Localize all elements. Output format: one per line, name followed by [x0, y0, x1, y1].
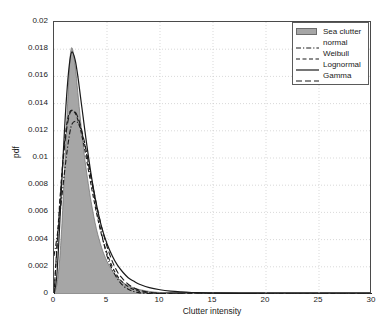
legend-item: normal: [296, 37, 365, 48]
y-tick-label: 0.008: [2, 180, 48, 188]
legend-label: Weibull: [323, 49, 349, 58]
y-tick-label: 0.01: [2, 153, 48, 161]
chart-legend: Sea clutternormalWeibullLognormalGamma: [292, 22, 369, 85]
legend-label: Gamma: [323, 71, 351, 80]
legend-patch: [296, 28, 317, 35]
x-tick-label: 25: [303, 296, 333, 304]
legend-swatch: [296, 60, 319, 69]
x-tick-label: 5: [91, 296, 121, 304]
legend-item: Gamma: [296, 70, 365, 81]
y-tick-label: 0.004: [2, 235, 48, 243]
legend-item: Weibull: [296, 48, 365, 59]
legend-label: Lognormal: [323, 60, 361, 69]
y-tick-label: 0.018: [2, 44, 48, 52]
legend-item: Sea clutter: [296, 26, 365, 37]
y-tick-label: 0.014: [2, 99, 48, 107]
legend-swatch: [296, 27, 319, 36]
y-tick-label: 0.006: [2, 207, 48, 215]
y-axis-title: pdf: [11, 132, 21, 172]
x-tick-label: 0: [38, 296, 68, 304]
x-axis-title: Clutter intensity: [53, 306, 371, 316]
x-tick-label: 15: [197, 296, 227, 304]
legend-label: Sea clutter: [323, 27, 361, 36]
x-tick-label: 30: [356, 296, 385, 304]
y-tick-label: 0.016: [2, 71, 48, 79]
legend-swatch: [296, 71, 319, 80]
x-tick-label: 20: [250, 296, 280, 304]
legend-swatch: [296, 38, 319, 47]
y-tick-label: 0.002: [2, 262, 48, 270]
legend-label: normal: [323, 38, 347, 47]
x-tick-label: 10: [144, 296, 174, 304]
y-tick-label: 0.02: [2, 17, 48, 25]
chart-figure: pdf 00.0020.0040.0060.0080.010.0120.0140…: [0, 0, 385, 323]
legend-item: Lognormal: [296, 59, 365, 70]
legend-swatch: [296, 49, 319, 58]
y-tick-label: 0.012: [2, 126, 48, 134]
